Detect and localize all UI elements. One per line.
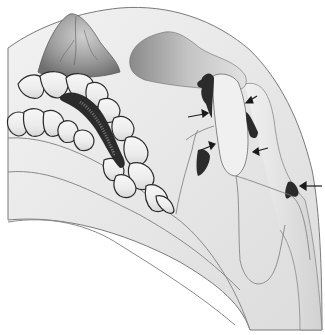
anatomical-diagram: [0, 0, 325, 335]
diagram-svg: [0, 0, 325, 335]
tooth: [74, 130, 94, 150]
